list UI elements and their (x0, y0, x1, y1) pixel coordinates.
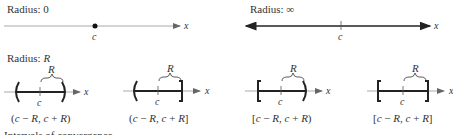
svg-text:R: R (289, 62, 297, 74)
axis-label: x (183, 20, 189, 31)
svg-text:[c − R, c + R): [c − R, c + R) (252, 112, 312, 125)
interval-open-open: c x R (c − R, c + R) (4, 63, 89, 125)
svg-text:x: x (204, 85, 210, 96)
svg-text:x: x (325, 85, 331, 96)
footer-partial-caption: Intervals of convergence (4, 129, 113, 135)
interval-closed-closed: c x R [c − R, c + R] (367, 62, 453, 124)
svg-text:x: x (433, 20, 439, 31)
svg-text:(c − R, c + R): (c − R, c + R) (11, 112, 71, 125)
radius-zero-line: c x (4, 20, 189, 42)
svg-text:(c − R, c + R]: (c − R, c + R] (129, 112, 189, 125)
center-point-icon (93, 24, 98, 29)
svg-text:[c − R, c + R]: [c − R, c + R] (373, 112, 433, 124)
number-line-diagrams: c x c x c x R (c − R, c + R) c x R (c − … (0, 0, 453, 135)
svg-text:c: c (338, 31, 343, 42)
svg-text:x: x (83, 86, 89, 97)
center-label: c (92, 31, 97, 42)
svg-text:x: x (448, 85, 453, 96)
radius-infinity-line: c x (246, 20, 439, 42)
svg-text:R: R (166, 62, 174, 74)
interval-open-closed: c x R (c − R, c + R] (123, 62, 210, 125)
svg-text:c: c (400, 96, 405, 107)
interval-closed-open: c x R [c − R, c + R) (245, 62, 331, 125)
svg-text:R: R (411, 62, 419, 74)
svg-text:c: c (37, 97, 42, 108)
svg-text:c: c (278, 96, 283, 107)
svg-text:c: c (155, 96, 160, 107)
svg-text:R: R (47, 63, 55, 75)
